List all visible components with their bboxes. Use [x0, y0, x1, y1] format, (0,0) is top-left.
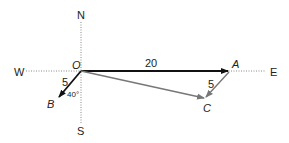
vector-diagram: N S W E O A B C 20 5 5 40°: [0, 0, 289, 143]
south-label: S: [77, 125, 84, 137]
ac-magnitude-label: 5: [208, 78, 214, 90]
north-label: N: [77, 9, 85, 21]
west-label: W: [14, 66, 25, 78]
point-c-label: C: [203, 102, 211, 114]
point-o-label: O: [72, 59, 81, 71]
oa-magnitude-label: 20: [145, 57, 157, 69]
angle-label: 40°: [67, 90, 79, 99]
east-label: E: [270, 66, 277, 78]
point-b-label: B: [47, 98, 54, 110]
vector-oc: [81, 71, 204, 98]
point-a-label: A: [231, 58, 239, 70]
ob-magnitude-label: 5: [62, 76, 68, 88]
